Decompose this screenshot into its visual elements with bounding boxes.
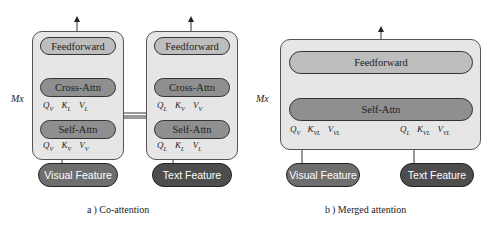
repeat-label-a: Mx (11, 93, 24, 104)
visual-feature-node: Visual Feature (38, 163, 118, 187)
visual-feedforward-node: Feedforward (40, 37, 116, 55)
repeat-label-b: Mx (256, 93, 269, 104)
text-self-inputs: QL KL VL (157, 140, 202, 152)
merged-self-attn-node: Self-Attn (289, 98, 473, 121)
visual-self-attn-node: Self-Attn (40, 120, 116, 139)
caption-co-attention: a ) Co-attention (87, 204, 149, 215)
caption-merged-attention: b ) Merged attention (325, 204, 406, 215)
merged-text-inputs: QL KVL VVL (400, 124, 450, 136)
visual-cross-inputs: QV KL VL (43, 100, 88, 112)
visual-self-inputs: QV KV VV (43, 140, 89, 152)
text-self-attn-node: Self-Attn (154, 120, 230, 139)
visual-cross-attn-node: Cross-Attn (40, 78, 116, 97)
merged-visual-inputs: QV KVL VVL (290, 124, 340, 136)
merged-text-feature-node: Text Feature (400, 163, 474, 187)
text-cross-attn-node: Cross-Attn (154, 78, 230, 97)
text-feature-node: Text Feature (152, 163, 232, 187)
text-cross-inputs: QL KV VV (157, 100, 202, 112)
merged-visual-feature-node: Visual Feature (286, 163, 360, 187)
text-feedforward-node: Feedforward (154, 37, 230, 55)
merged-feedforward-node: Feedforward (289, 51, 473, 74)
